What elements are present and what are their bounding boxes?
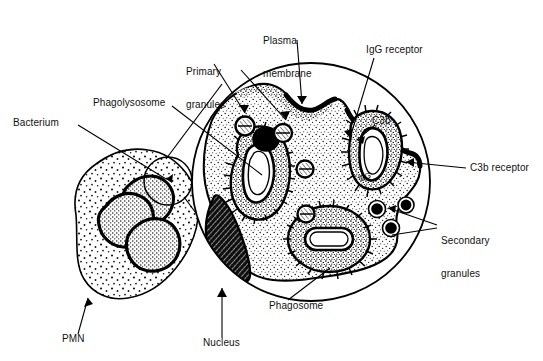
pmn-nucleus-lobe-3 (126, 219, 179, 271)
label-plasma-membrane-line2: membrane (263, 68, 312, 79)
figure-root: Primary granules Plasma membrane IgG rec… (0, 0, 543, 361)
label-plasma-membrane: Plasma membrane (263, 13, 312, 101)
label-primary-granules: Primary granules (186, 44, 225, 132)
label-phagolysosome: Phagolysosome (93, 97, 165, 108)
primary-granule (236, 117, 255, 136)
label-pmn: PMN (62, 333, 85, 344)
primary-granule (274, 124, 292, 142)
label-primary-granules-line2: granules (186, 99, 225, 110)
label-c3b-receptor: C3b receptor (470, 162, 529, 173)
label-c3b: C3b (372, 115, 391, 126)
primary-granule (298, 206, 315, 223)
label-igg-receptor: IgG receptor (366, 44, 423, 55)
secondary-granule (398, 197, 414, 213)
label-secondary-granules: Secondary granules (441, 213, 490, 301)
label-phagosome: Phagosome (269, 300, 323, 311)
label-bacterium: Bacterium (13, 117, 59, 128)
label-secondary-granules-line1: Secondary (441, 235, 490, 246)
label-nucleus: Nucleus (203, 337, 240, 348)
label-plasma-membrane-line1: Plasma (263, 35, 312, 46)
secondary-granule (369, 201, 386, 218)
primary-granule (297, 161, 314, 178)
label-primary-granules-line1: Primary (186, 66, 225, 77)
label-secondary-granules-line2: granules (441, 268, 490, 279)
